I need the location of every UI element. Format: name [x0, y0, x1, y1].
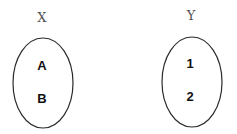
set-y-title: Y	[186, 8, 196, 23]
set-y: Y 1 2	[162, 8, 222, 127]
set-y-element-2: 2	[186, 89, 193, 104]
set-x-element-b: B	[37, 91, 46, 106]
set-x-title: X	[37, 10, 47, 25]
set-x-ellipse	[13, 38, 73, 128]
set-y-ellipse	[162, 37, 222, 127]
set-x-element-a: A	[37, 58, 47, 73]
set-x: X A B	[13, 10, 73, 128]
set-y-element-1: 1	[186, 56, 193, 71]
set-diagram: X A B Y 1 2	[0, 0, 237, 134]
